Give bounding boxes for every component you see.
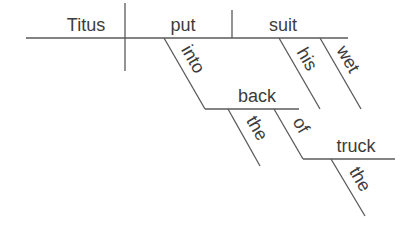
sentence-diagram: Titus put suit his wet into back the of … [0,0,417,235]
object-word: suit [269,15,297,35]
prep-object-word-back: back [238,86,277,106]
modifier-word-the-1: the [242,112,272,144]
prep-object-word-truck: truck [336,136,376,156]
subject-word: Titus [67,15,105,35]
verb-word: put [170,15,195,35]
preposition-word-into: into [177,41,209,76]
modifier-word-wet: wet [332,41,364,76]
preposition-word-of: of [289,113,314,137]
